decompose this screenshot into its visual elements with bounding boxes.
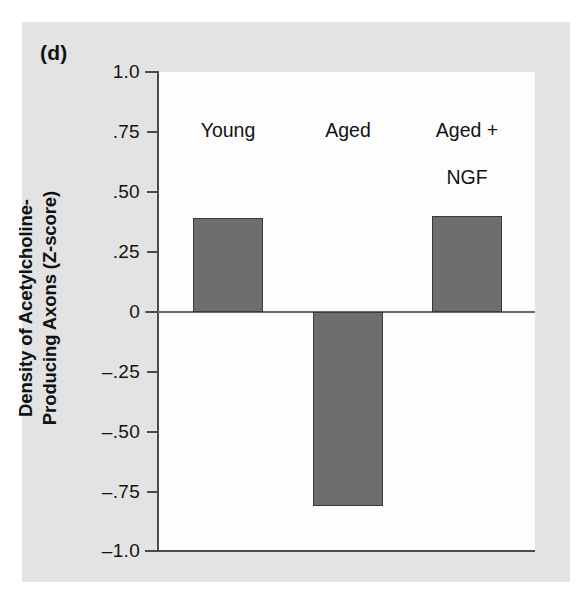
y-tick-mark-6 <box>147 371 158 373</box>
group-label-young: Young <box>183 95 273 166</box>
y-tick-label-6: –.25 <box>36 361 140 383</box>
y-tick-label-9: –1.0 <box>36 540 140 562</box>
y-tick-label-5: 0 <box>36 301 140 323</box>
y-tick-label-7-wrap: –.50 <box>36 421 140 443</box>
y-tick-label-7: –.50 <box>36 421 140 443</box>
y-tick-label-3-wrap: .50 <box>36 181 140 203</box>
group-label-aged: Aged <box>303 95 393 166</box>
y-tick-label-8-wrap: –.75 <box>36 481 140 503</box>
group-label-aged-ngf-line-1: Aged + <box>422 119 512 143</box>
y-tick-label-9-wrap: –1.0 <box>36 540 140 562</box>
y-tick-mark-2 <box>147 131 158 133</box>
bar-aged-ngf <box>432 216 502 312</box>
y-tick-label-6-wrap: –.25 <box>36 361 140 383</box>
y-tick-label-2-wrap: .75 <box>36 121 140 143</box>
y-tick-label-2: .75 <box>36 121 140 143</box>
figure-container: (d) Density of Acetylcholine- Producing … <box>0 0 585 607</box>
bar-aged <box>313 312 383 506</box>
y-tick-mark-5 <box>147 311 158 313</box>
y-tick-mark-3 <box>147 191 158 193</box>
y-tick-mark-4 <box>147 251 158 253</box>
group-label-aged-line-1: Aged <box>303 119 393 143</box>
group-label-aged-ngf-line-2: NGF <box>422 166 512 190</box>
y-axis-title-line-1: Density of Acetylcholine- <box>14 148 38 468</box>
y-tick-mark-1 <box>147 71 158 73</box>
y-tick-label-8: –.75 <box>36 481 140 503</box>
y-tick-label-1: 1.0 <box>36 61 140 83</box>
y-tick-label-1-wrap: 1.0 <box>36 61 140 83</box>
y-tick-label-3: .50 <box>36 181 140 203</box>
bar-young <box>193 218 263 312</box>
y-tick-label-4: .25 <box>36 241 140 263</box>
y-tick-mark-7 <box>147 431 158 433</box>
group-label-young-line-1: Young <box>183 119 273 143</box>
y-tick-label-5-wrap: 0 <box>36 301 140 323</box>
x-axis-bottom-line <box>145 550 535 552</box>
y-tick-mark-9 <box>147 550 158 552</box>
y-tick-label-4-wrap: .25 <box>36 241 140 263</box>
group-label-aged-ngf: Aged + NGF <box>422 95 512 214</box>
y-tick-mark-8 <box>147 491 158 493</box>
